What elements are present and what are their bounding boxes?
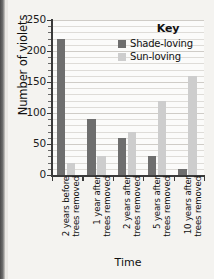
y-axis-minor-tick: [48, 125, 51, 126]
y-axis-minor-tick: [48, 119, 51, 120]
y-axis-title: Number of violets: [16, 0, 30, 135]
y-axis-minor-tick: [48, 32, 51, 33]
y-axis-minor-tick: [48, 76, 51, 77]
y-axis-minor-tick: [48, 132, 51, 133]
y-axis-minor-tick: [48, 88, 51, 89]
x-axis-tick: [204, 176, 205, 181]
x-axis-label-line: trees removed: [193, 176, 203, 250]
legend-label-sun-loving: Sun-loving: [130, 51, 181, 62]
x-axis-tick: [113, 176, 114, 181]
y-axis-tick: [47, 82, 51, 83]
x-axis-label-line: trees removed: [102, 176, 112, 250]
legend-label-shade-loving: Shade-loving: [130, 38, 193, 49]
x-axis-category-label: 5 years aftertrees removed: [152, 176, 172, 250]
bar-shade-loving: [148, 156, 157, 175]
legend: Key Shade-loving Sun-loving: [118, 22, 208, 64]
x-axis-label-line: 5 years after: [152, 176, 162, 250]
y-axis-minor-tick: [48, 63, 51, 64]
bar-sun-loving: [128, 132, 137, 175]
x-axis-label-line: 2 years after: [122, 176, 132, 250]
y-axis-tick-label: 50: [33, 138, 46, 149]
y-axis-minor-tick: [48, 163, 51, 164]
y-axis-minor-tick: [48, 94, 51, 95]
bar-sun-loving: [67, 163, 76, 175]
x-axis-category-label: 2 years beforetrees removed: [61, 176, 81, 250]
chart-figure: 050100150200250 Number of violets 2 year…: [0, 0, 214, 279]
y-axis-tick-label: 0: [40, 169, 46, 180]
y-axis-minor-tick: [48, 45, 51, 46]
y-axis-minor-tick: [48, 138, 51, 139]
y-axis-minor-tick: [48, 101, 51, 102]
x-axis-label-line: trees removed: [132, 176, 142, 250]
legend-item-sun-loving: Sun-loving: [118, 51, 208, 62]
y-axis-minor-tick: [48, 150, 51, 151]
y-axis-minor-tick: [48, 169, 51, 170]
x-axis-label-line: trees removed: [162, 176, 172, 250]
y-axis-minor-tick: [48, 70, 51, 71]
x-axis-category-label: 10 years aftertrees removed: [183, 176, 203, 250]
legend-title: Key: [128, 22, 208, 35]
x-axis-label-line: 10 years after: [183, 176, 193, 250]
y-axis-tick: [47, 51, 51, 52]
y-axis-minor-tick: [48, 107, 51, 108]
x-axis-tick: [143, 176, 144, 181]
bar-sun-loving: [158, 101, 167, 175]
x-axis-title: Time: [52, 256, 204, 269]
x-axis-category-label: 2 years aftertrees removed: [122, 176, 142, 250]
bar-shade-loving: [87, 119, 96, 175]
y-axis-tick: [47, 20, 51, 21]
x-axis-tick: [174, 176, 175, 181]
x-axis-category-label: 1 year aftertrees removed: [92, 176, 112, 250]
y-axis-tick: [47, 113, 51, 114]
y-axis-minor-tick: [48, 39, 51, 40]
bar-shade-loving: [178, 169, 187, 175]
y-axis-tick: [47, 144, 51, 145]
y-axis-minor-tick: [48, 26, 51, 27]
bar-sun-loving: [188, 76, 197, 175]
x-axis-tick: [82, 176, 83, 181]
x-axis-labels: 2 years beforetrees removed1 year aftert…: [52, 178, 204, 250]
legend-swatch-sun-loving: [118, 53, 126, 61]
bar-shade-loving: [57, 39, 66, 175]
x-axis-tick: [52, 176, 53, 181]
legend-item-shade-loving: Shade-loving: [118, 38, 208, 49]
bar-sun-loving: [97, 156, 106, 175]
legend-swatch-shade-loving: [118, 40, 126, 48]
y-axis-minor-tick: [48, 156, 51, 157]
y-axis-tick: [47, 175, 51, 176]
x-axis-label-line: trees removed: [71, 176, 81, 250]
bar-shade-loving: [118, 138, 127, 175]
x-axis-label-line: 2 years before: [61, 176, 71, 250]
y-axis-minor-tick: [48, 57, 51, 58]
x-axis-label-line: 1 year after: [92, 176, 102, 250]
